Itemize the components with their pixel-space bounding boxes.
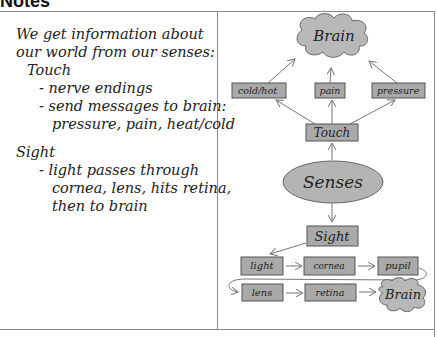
svg-text:pupil: pupil: [385, 260, 411, 271]
box-touch: Touch: [306, 124, 358, 141]
box-lens: lens: [242, 284, 283, 301]
brain-label-bottom: Brain: [384, 287, 421, 302]
svg-text:pain: pain: [320, 85, 341, 96]
box-sight: Sight: [307, 226, 358, 246]
brain-cloud-top: Brain: [297, 14, 368, 58]
box-retina: retina: [305, 284, 356, 301]
arrow-sight-to-light: [270, 243, 306, 254]
svg-text:cornea: cornea: [313, 261, 344, 271]
arrow-pain-to-brain: [330, 68, 331, 83]
box-pressure: pressure: [372, 83, 425, 98]
senses-diagram: Brain cold/hot pain pressure Touch Sense…: [0, 0, 437, 337]
svg-text:Senses: Senses: [303, 172, 363, 192]
svg-text:light: light: [250, 260, 274, 271]
svg-text:Touch: Touch: [314, 126, 350, 140]
brain-cloud-bottom: Brain: [379, 278, 426, 312]
svg-text:cold/hot: cold/hot: [238, 85, 277, 96]
box-cornea: cornea: [304, 257, 355, 275]
box-cold-hot: cold/hot: [232, 83, 286, 98]
svg-text:Sight: Sight: [315, 229, 351, 244]
box-pain: pain: [315, 83, 345, 98]
box-pupil: pupil: [378, 257, 418, 275]
svg-text:lens: lens: [252, 287, 273, 298]
senses-ellipse: Senses: [283, 161, 383, 203]
svg-text:retina: retina: [316, 287, 345, 298]
box-light: light: [241, 257, 283, 275]
brain-label-top: Brain: [312, 27, 355, 45]
arrow-pressure-to-brain: [369, 61, 397, 83]
arrow-touch-to-coldhot: [276, 100, 315, 124]
arrow-coldhot-to-brain: [268, 59, 295, 83]
svg-text:pressure: pressure: [377, 85, 420, 96]
arrow-touch-to-pressure: [350, 100, 395, 124]
